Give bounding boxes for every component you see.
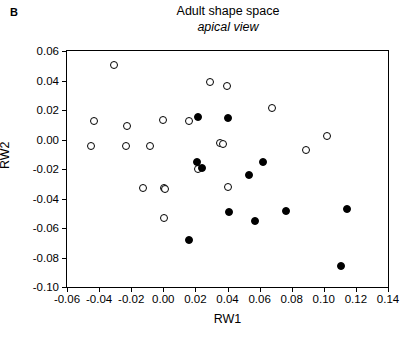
y-tick-label: 0.02	[37, 104, 59, 116]
x-tick-mark	[163, 287, 164, 292]
x-tick-mark	[356, 287, 357, 292]
scatter-point-open	[159, 116, 167, 124]
x-tick-label: 0.06	[248, 293, 270, 305]
y-tick-label: -0.08	[33, 252, 59, 264]
scatter-point-filled	[245, 171, 253, 179]
scatter-point-open	[206, 78, 214, 86]
scatter-point-filled	[194, 113, 202, 121]
chart-title: Adult shape space apical view	[66, 4, 390, 35]
scatter-point-open	[160, 214, 168, 222]
y-axis-title: RW2	[0, 141, 12, 169]
x-tick-mark	[324, 287, 325, 292]
y-tick-label: -0.10	[33, 281, 59, 293]
y-tick-mark	[62, 199, 67, 200]
x-tick-label: 0.14	[377, 293, 399, 305]
x-tick-label: 0.02	[184, 293, 206, 305]
scatter-point-open	[161, 185, 169, 193]
chart-title-subtitle: apical view	[66, 20, 390, 36]
scatter-point-filled	[224, 114, 232, 122]
y-tick-label: 0.04	[37, 75, 59, 87]
x-tick-mark	[260, 287, 261, 292]
x-axis-title: RW1	[66, 312, 389, 326]
x-tick-mark	[131, 287, 132, 292]
scatter-point-filled	[259, 158, 267, 166]
scatter-point-open	[302, 146, 310, 154]
y-tick-label: 0.06	[37, 45, 59, 57]
scatter-point-filled	[337, 262, 345, 270]
plot-area: 0.060.040.020.00-0.02-0.04-0.06-0.08-0.1…	[66, 50, 389, 288]
chart-title-main: Adult shape space	[66, 4, 390, 20]
y-tick-label: -0.06	[33, 222, 59, 234]
x-tick-label: -0.02	[118, 293, 144, 305]
scatter-point-filled	[251, 217, 259, 225]
y-tick-label: -0.02	[33, 163, 59, 175]
x-tick-label: 0.12	[345, 293, 367, 305]
scatter-point-open	[139, 184, 147, 192]
x-tick-mark	[292, 287, 293, 292]
scatter-point-open	[110, 61, 118, 69]
scatter-point-open	[224, 183, 232, 191]
scatter-point-open	[268, 104, 276, 112]
panel-label: B	[10, 6, 18, 18]
figure-panel: B Adult shape space apical view RW2 RW1 …	[0, 0, 410, 337]
scatter-point-filled	[282, 207, 290, 215]
y-tick-mark	[62, 51, 67, 52]
y-tick-label: 0.00	[37, 134, 59, 146]
scatter-point-open	[123, 122, 131, 130]
y-tick-mark	[62, 169, 67, 170]
x-tick-label: 0.04	[216, 293, 238, 305]
y-tick-mark	[62, 81, 67, 82]
y-tick-label: -0.04	[33, 193, 59, 205]
scatter-point-filled	[198, 164, 206, 172]
x-tick-label: -0.04	[86, 293, 112, 305]
x-tick-label: 0.00	[152, 293, 174, 305]
x-tick-label: -0.06	[54, 293, 80, 305]
x-tick-mark	[99, 287, 100, 292]
scatter-point-filled	[343, 205, 351, 213]
x-tick-label: 0.10	[313, 293, 335, 305]
y-tick-mark	[62, 140, 67, 141]
x-tick-mark	[67, 287, 68, 292]
scatter-point-open	[90, 117, 98, 125]
y-tick-mark	[62, 110, 67, 111]
scatter-point-open	[146, 142, 154, 150]
scatter-point-open	[323, 132, 331, 140]
scatter-point-filled	[225, 208, 233, 216]
scatter-point-open	[219, 140, 227, 148]
scatter-point-open	[185, 117, 193, 125]
scatter-point-open	[223, 82, 231, 90]
scatter-point-filled	[185, 236, 193, 244]
x-tick-label: 0.08	[280, 293, 302, 305]
x-tick-mark	[388, 287, 389, 292]
x-tick-mark	[228, 287, 229, 292]
y-tick-mark	[62, 228, 67, 229]
y-tick-mark	[62, 258, 67, 259]
scatter-point-open	[122, 142, 130, 150]
scatter-point-open	[87, 142, 95, 150]
x-tick-mark	[195, 287, 196, 292]
